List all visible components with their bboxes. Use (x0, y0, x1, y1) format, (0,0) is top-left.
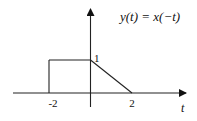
tick-label-x-neg: -2 (48, 97, 57, 109)
equation-title: y(t) = x(−t) (118, 9, 180, 24)
tick-label-y-one: 1 (94, 52, 100, 64)
signal-diagram: y(t) = x(−t) 1 -2 2 t (0, 0, 197, 121)
tick-label-x-pos: 2 (129, 97, 135, 109)
x-axis-label: t (181, 101, 185, 115)
signal-segment (91, 60, 133, 93)
